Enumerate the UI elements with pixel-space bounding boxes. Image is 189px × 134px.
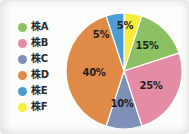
legend-label-kabu-e: 株E bbox=[31, 86, 47, 96]
legend-swatch-kabu-a bbox=[18, 23, 27, 32]
legend-label-kabu-d: 株D bbox=[31, 70, 49, 80]
pie-label-株F: 5% bbox=[117, 20, 133, 31]
legend-item-kabu-d[interactable]: 株D bbox=[18, 67, 68, 83]
legend-swatch-kabu-b bbox=[18, 39, 27, 48]
pie-label-株B: 25% bbox=[139, 80, 162, 91]
pie-chart-card: 株A 株B 株C 株D 株E 株F 5%15%25%10%40%5% bbox=[0, 0, 189, 134]
legend-item-kabu-f[interactable]: 株F bbox=[18, 99, 68, 115]
pie-label-株D: 40% bbox=[82, 67, 105, 78]
legend-label-kabu-c: 株C bbox=[31, 54, 48, 64]
legend-item-kabu-e[interactable]: 株E bbox=[18, 83, 68, 99]
pie-label-株C: 10% bbox=[110, 98, 133, 109]
legend-item-kabu-b[interactable]: 株B bbox=[18, 35, 68, 51]
pie-graphic: 5%15%25%10%40%5% bbox=[65, 12, 183, 130]
legend-label-kabu-f: 株F bbox=[31, 102, 47, 112]
legend-item-kabu-c[interactable]: 株C bbox=[18, 51, 68, 67]
legend-swatch-kabu-f bbox=[18, 103, 27, 112]
chart-legend: 株A 株B 株C 株D 株E 株F bbox=[18, 19, 68, 115]
legend-item-kabu-a[interactable]: 株A bbox=[18, 19, 68, 35]
legend-swatch-kabu-d bbox=[18, 71, 27, 80]
legend-swatch-kabu-e bbox=[18, 87, 27, 96]
legend-label-kabu-a: 株A bbox=[31, 22, 48, 32]
legend-swatch-kabu-c bbox=[18, 55, 27, 64]
pie-label-株A: 15% bbox=[135, 40, 158, 51]
legend-label-kabu-b: 株B bbox=[31, 38, 48, 48]
pie-label-株E: 5% bbox=[93, 29, 109, 40]
